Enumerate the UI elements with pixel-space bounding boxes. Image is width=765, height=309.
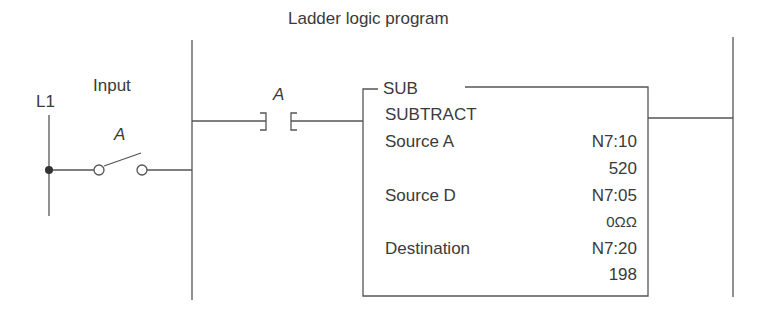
switch-blade xyxy=(104,153,141,166)
switch-terminal-left xyxy=(94,165,104,175)
switch-label: A xyxy=(114,126,125,143)
destination-value: 198 xyxy=(609,266,637,283)
diagram-title: Ladder logic program xyxy=(288,10,449,27)
source-a-label: Source A xyxy=(385,133,454,150)
junction-dot xyxy=(45,166,53,174)
contact-label: A xyxy=(273,86,284,103)
instruction-name: SUBTRACT xyxy=(385,106,477,123)
input-label: Input xyxy=(93,77,131,94)
ladder-diagram-lines xyxy=(0,0,765,309)
instruction-mnemonic: SUB xyxy=(383,80,418,97)
source-a-address: N7:10 xyxy=(592,133,637,150)
l1-label: L1 xyxy=(36,93,55,110)
destination-address: N7:20 xyxy=(592,240,637,257)
source-b-value: 0ΩΩ xyxy=(606,214,637,229)
destination-label: Destination xyxy=(385,240,470,257)
source-a-value: 520 xyxy=(609,160,637,177)
source-b-label: Source D xyxy=(385,187,456,204)
source-b-address: N7:05 xyxy=(592,187,637,204)
switch-terminal-right xyxy=(137,165,147,175)
